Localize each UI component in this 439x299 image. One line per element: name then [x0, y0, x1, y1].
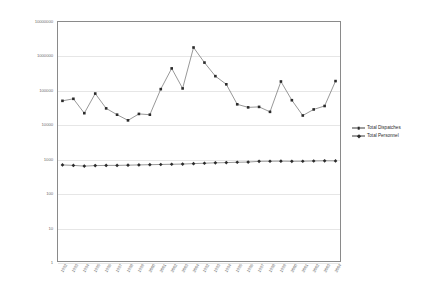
x-axis-tick-label: 1998	[268, 263, 277, 273]
x-axis-tick-label: 2001	[158, 263, 167, 273]
legend-item-total-dispatches[interactable]: Total Dispatches	[352, 124, 438, 132]
series-line	[62, 47, 335, 120]
data-point	[291, 99, 294, 102]
data-point	[214, 75, 217, 78]
data-point	[104, 164, 108, 168]
legend-item-total-personnel[interactable]: Total Personnel	[352, 132, 438, 140]
y-axis-tick-label: 10000000	[35, 19, 53, 24]
series-svg	[57, 21, 341, 262]
data-point	[334, 159, 338, 163]
data-point	[93, 164, 97, 168]
legend-label-total-personnel: Total Personnel	[367, 132, 399, 140]
data-point	[247, 106, 250, 109]
x-axis-tick-label: 1997	[257, 263, 266, 273]
x-axis-tick-label: 2002	[169, 263, 178, 273]
data-point	[116, 113, 119, 116]
x-axis-tick-label: 2003	[180, 263, 189, 273]
data-point	[323, 159, 327, 163]
x-axis-tick-label: 1999	[136, 263, 145, 273]
x-axis-tick-label: 2000	[147, 263, 156, 273]
data-point	[105, 107, 108, 110]
y-axis-tick-label: 100000	[39, 87, 53, 92]
data-point	[61, 100, 64, 103]
data-point	[312, 108, 315, 111]
data-point	[72, 98, 75, 101]
data-point	[126, 163, 130, 167]
chart-legend: Total Dispatches Total Personnel	[352, 124, 438, 140]
data-point	[279, 159, 283, 163]
x-axis-tick-label: 1993	[71, 263, 80, 273]
x-axis: 1992199319941995199619971998199920002001…	[57, 263, 341, 299]
data-point	[224, 161, 228, 165]
data-point	[61, 163, 65, 167]
data-point	[127, 119, 130, 122]
x-axis-tick-label: 1992	[202, 263, 211, 273]
y-axis-tick-label: 10000	[42, 122, 53, 127]
data-point	[83, 112, 86, 115]
data-point	[323, 105, 326, 108]
data-point	[246, 160, 250, 164]
x-axis-tick-label: 1994	[82, 263, 91, 273]
x-axis-tick-label: 2004	[191, 263, 200, 273]
x-axis-tick-label: 1996	[246, 263, 255, 273]
data-point	[159, 88, 162, 91]
data-point	[203, 61, 206, 64]
series-total-personnel	[61, 159, 338, 168]
data-point	[192, 46, 195, 49]
x-axis-tick-label: 2003	[322, 263, 331, 273]
data-point	[170, 162, 174, 166]
data-point	[149, 113, 152, 116]
series-line	[62, 161, 335, 166]
data-point	[159, 163, 163, 167]
series-layer	[57, 21, 341, 262]
x-axis-tick-label: 2002	[311, 263, 320, 273]
data-point	[225, 83, 228, 86]
data-point	[192, 162, 196, 166]
x-axis-tick-label: 1993	[213, 263, 222, 273]
y-axis: 100000001000000100000100001000100101	[0, 0, 57, 283]
data-point	[301, 114, 304, 117]
data-point	[138, 113, 141, 116]
y-axis-tick-label: 1	[51, 260, 53, 265]
data-point	[72, 164, 76, 168]
data-point	[82, 164, 86, 168]
data-point	[94, 92, 97, 95]
data-point	[334, 80, 337, 83]
data-point	[269, 111, 272, 114]
x-axis-tick-label: 1998	[126, 263, 135, 273]
x-axis-tick-label: 2004	[333, 263, 342, 273]
legend-label-total-dispatches: Total Dispatches	[367, 124, 401, 132]
data-point	[115, 164, 119, 168]
data-point	[203, 161, 207, 165]
x-axis-tick-label: 2001	[300, 263, 309, 273]
y-axis-tick-label: 100	[46, 191, 53, 196]
data-point	[214, 161, 218, 165]
x-axis-tick-label: 1995	[235, 263, 244, 273]
x-axis-tick-label: 1996	[104, 263, 113, 273]
data-point	[181, 87, 184, 90]
y-axis-tick-label: 1000000	[37, 53, 53, 58]
data-point	[137, 163, 141, 167]
x-axis-tick-label: 1997	[115, 263, 124, 273]
data-point	[257, 159, 261, 163]
data-point	[236, 103, 239, 106]
data-point	[312, 159, 316, 163]
data-point	[148, 163, 152, 167]
x-axis-tick-label: 1992	[60, 263, 69, 273]
data-point	[280, 80, 283, 83]
data-point	[268, 159, 272, 163]
data-point	[290, 159, 294, 163]
x-axis-tick-label: 1995	[93, 263, 102, 273]
data-point	[258, 106, 261, 109]
data-point	[301, 159, 305, 163]
x-axis-tick-label: 1994	[224, 263, 233, 273]
chart-container: 100000001000000100000100001000100101 199…	[0, 0, 439, 299]
data-point	[181, 162, 185, 166]
legend-marker-diamond	[352, 133, 365, 139]
legend-marker-square	[352, 125, 365, 131]
data-point	[235, 160, 239, 164]
y-axis-tick-label: 1000	[44, 156, 53, 161]
data-point	[170, 67, 173, 70]
x-axis-tick-label: 2000	[289, 263, 298, 273]
series-total-dispatches	[61, 46, 337, 121]
